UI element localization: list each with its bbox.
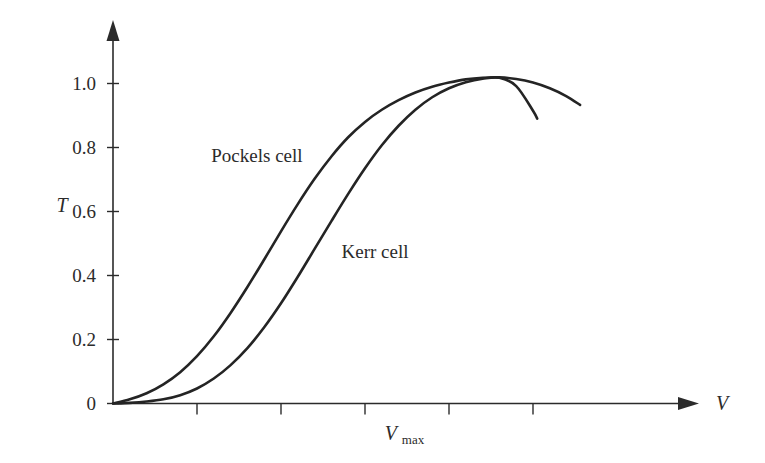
series-label-kerr-cell: Kerr cell <box>342 241 409 262</box>
y-tick-label-1: 0.2 <box>72 329 96 350</box>
vmax-subscript: max <box>402 432 425 447</box>
series-label-pockels-cell: Pockels cell <box>211 145 302 166</box>
figure-root: 00.20.40.60.81.0 T V V max Pockels cell … <box>0 0 765 463</box>
transmission-voltage-chart: 00.20.40.60.81.0 T V V max Pockels cell … <box>0 0 765 463</box>
y-tick-label-0: 0 <box>87 393 97 414</box>
y-tick-label-2: 0.4 <box>72 265 96 286</box>
y-tick-label-4: 0.8 <box>72 137 96 158</box>
y-tick-label-3: 0.6 <box>72 201 96 222</box>
y-axis-title: T <box>56 194 69 216</box>
chart-background <box>0 0 765 463</box>
y-tick-label-5: 1.0 <box>72 73 96 94</box>
